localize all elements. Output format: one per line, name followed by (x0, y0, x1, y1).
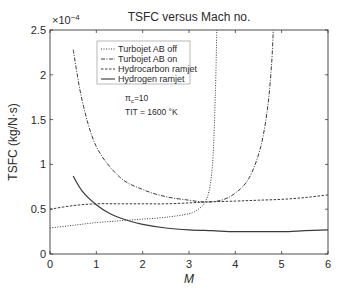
y-tick-label: 1 (40, 158, 46, 170)
y-tick-label: 1.5 (31, 114, 46, 126)
x-tick-label: 6 (325, 258, 331, 270)
y-tick-label: 2.5 (31, 24, 46, 36)
legend-item-hydrogen-ramjet: Hydrogen ramjet (118, 74, 185, 84)
legend: Turbojet AB off Turbojet AB on Hydrocarb… (97, 41, 198, 84)
legend-item-hydrocarbon-ramjet: Hydrocarbon ramjet (118, 64, 198, 74)
x-tick-label: 0 (47, 258, 53, 270)
x-tick-label: 4 (232, 258, 238, 270)
y-tick-label: 0.5 (31, 203, 46, 215)
annotation-compressor-ratio: πc=10 (125, 93, 149, 104)
legend-item-turbojet-ab-off: Turbojet AB off (118, 44, 178, 54)
x-tick-label: 2 (140, 258, 146, 270)
y-multiplier: ×10−4 (52, 13, 80, 26)
y-tick-label: 2 (40, 69, 46, 81)
tsfc-chart: TSFC versus Mach no. ×10−4 0123456 00.51… (0, 0, 347, 297)
chart-title: TSFC versus Mach no. (128, 10, 251, 24)
y-tick-label: 0 (40, 248, 46, 260)
annotation-tit: TIT = 1600 °K (125, 107, 178, 117)
x-axis-label: M (184, 272, 194, 286)
legend-item-turbojet-ab-on: Turbojet AB on (118, 54, 177, 64)
y-axis-label: TSFC (kg/N·s) (6, 103, 20, 180)
x-tick-label: 1 (93, 258, 99, 270)
x-tick-label: 3 (186, 258, 192, 270)
x-tick-label: 5 (279, 258, 285, 270)
